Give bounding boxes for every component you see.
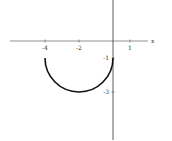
- x-tick-label: 1: [128, 44, 132, 51]
- x-axis-label: x: [151, 37, 155, 44]
- x-tick-label: -2: [76, 44, 82, 51]
- x-tick-label: -4: [42, 44, 48, 51]
- y-tick-label: -1: [103, 54, 109, 61]
- chart-plot: -4 -2 1 -1 -3 x: [0, 0, 172, 141]
- semicircle-curve: [45, 58, 113, 92]
- y-tick-label: -3: [103, 88, 109, 95]
